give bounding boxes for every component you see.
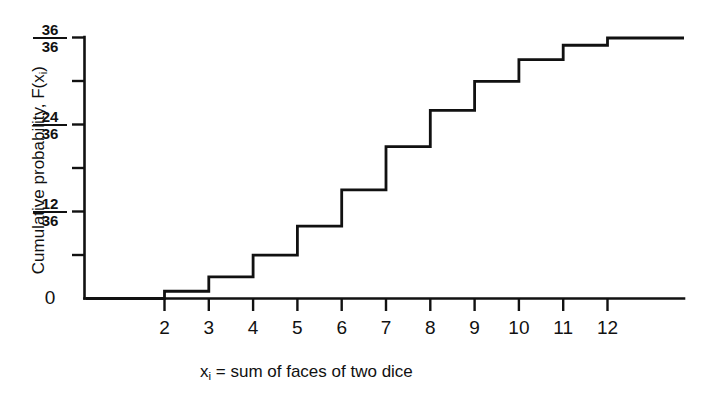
- y-axis-ticks: [72, 38, 85, 256]
- x-tick-label-10: 10: [508, 317, 529, 339]
- x-tick-label-5: 5: [292, 317, 303, 339]
- x-tick-label-12: 12: [597, 317, 618, 339]
- y-axis-title-container: Cumulative probability, F(xi): [0, 0, 40, 340]
- x-axis-title: xi = sum of faces of two dice: [200, 362, 413, 382]
- cdf-chart-figure: 36 36 24 36 12 36 0 2 3 4 5 6 7 8 9 10 1…: [0, 0, 704, 397]
- x-tick-label-6: 6: [336, 317, 347, 339]
- y-axis-title: Cumulative probability, F(xi): [29, 45, 49, 295]
- x-tick-label-3: 3: [204, 317, 215, 339]
- cdf-step-curve: [86, 38, 684, 299]
- y-axis-title-end: ): [29, 66, 48, 72]
- y-axis-title-main: Cumulative probability, F(x: [29, 74, 48, 274]
- x-tick-label-2: 2: [159, 317, 170, 339]
- x-tick-label-9: 9: [469, 317, 480, 339]
- x-tick-label-8: 8: [425, 317, 436, 339]
- x-axis-title-rest: = sum of faces of two dice: [211, 362, 413, 381]
- x-tick-label-7: 7: [381, 317, 392, 339]
- x-tick-label-4: 4: [248, 317, 259, 339]
- x-axis-ticks: [165, 298, 608, 311]
- x-axis-title-var: x: [200, 362, 209, 381]
- x-tick-label-11: 11: [553, 317, 573, 339]
